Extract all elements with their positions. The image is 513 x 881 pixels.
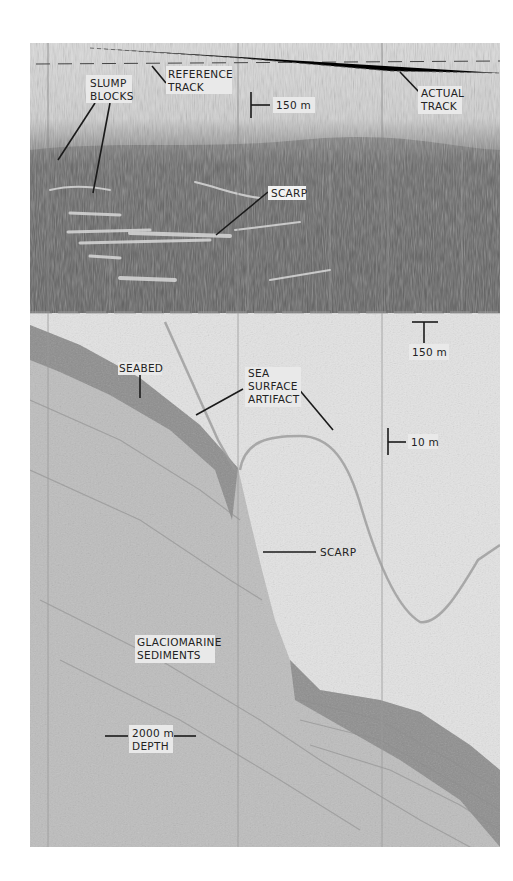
svg-text:150 m: 150 m [412,346,447,358]
svg-text:SEDIMENTS: SEDIMENTS [137,649,201,661]
label-scale-10m: 10 m [408,434,439,449]
label-actual-track: ACTUAL TRACK [418,86,464,114]
label-scarp-top: SCARP [268,186,307,200]
svg-text:10 m: 10 m [411,436,439,448]
svg-text:150 m: 150 m [276,99,311,111]
svg-text:SEA: SEA [248,367,270,379]
label-scarp-bottom: SCARP [320,546,356,558]
svg-text:GLACIOMARINE: GLACIOMARINE [137,636,222,648]
sonar-figure: SLUMP BLOCKS REFERENCE TRACK ACTUAL TRAC… [0,0,513,881]
svg-text:SEABED: SEABED [119,362,163,374]
label-glaciomarine-sediments: GLACIOMARINE SEDIMENTS [135,635,222,663]
label-seabed: SEABED [118,362,163,375]
svg-text:SCARP: SCARP [271,187,307,199]
svg-text:BLOCKS: BLOCKS [90,90,134,102]
label-slump-blocks: SLUMP BLOCKS [86,75,134,103]
label-depth: 2000 m DEPTH [129,725,174,753]
svg-text:2000 m: 2000 m [132,727,174,739]
label-scale-150m-bottom: 150 m [409,344,449,360]
label-scale-150m-top: 150 m [273,97,315,113]
svg-text:TRACK: TRACK [167,81,205,93]
svg-text:ACTUAL: ACTUAL [421,87,464,99]
label-sea-surface-artifact: SEA SURFACE ARTIFACT [245,367,301,407]
svg-text:ARTIFACT: ARTIFACT [248,393,300,405]
svg-text:SURFACE: SURFACE [248,380,298,392]
svg-text:DEPTH: DEPTH [132,740,169,752]
label-reference-track: REFERENCE TRACK [166,66,233,94]
svg-text:TRACK: TRACK [420,100,458,112]
svg-text:SLUMP: SLUMP [90,77,127,89]
svg-text:SCARP: SCARP [320,546,356,558]
svg-text:REFERENCE: REFERENCE [168,68,233,80]
